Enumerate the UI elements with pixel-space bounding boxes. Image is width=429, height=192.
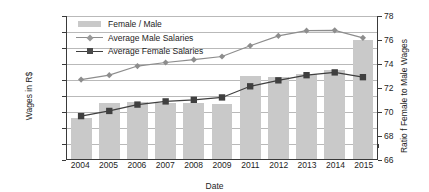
x-axis-tickmark	[378, 144, 379, 148]
data-point-square	[78, 113, 84, 119]
data-point-diamond	[78, 76, 84, 82]
y-axis-right-tickmark	[378, 88, 382, 89]
data-point-square	[134, 101, 140, 107]
data-point-diamond	[191, 57, 197, 63]
legend-item-female-male: Female / Male	[76, 19, 203, 29]
data-point-diamond	[332, 27, 338, 33]
y-axis-right-tick-label: 78	[384, 11, 429, 21]
legend-label-male-salaries: Average Male Salaries	[108, 33, 193, 43]
x-axis-tick-label: 2011	[236, 160, 264, 170]
data-point-square	[332, 69, 338, 75]
y-axis-right-tick-label: 68	[384, 131, 429, 141]
data-point-diamond	[247, 43, 253, 49]
legend-label-female-male: Female / Male	[108, 19, 162, 29]
y-axis-right-tickmark	[378, 64, 382, 65]
data-point-square	[162, 98, 168, 104]
data-point-diamond	[106, 72, 112, 78]
diamond-marker-icon	[76, 33, 103, 43]
x-axis-tick-labels: 2004200520062007200820092011201220132014…	[66, 160, 378, 170]
y-axis-right-tick-label: 74	[384, 59, 429, 69]
data-point-diamond	[163, 59, 169, 65]
data-point-square	[219, 94, 225, 100]
y-axis-right-tick-label: 76	[384, 35, 429, 45]
x-axis-tick-label: 2015	[350, 160, 378, 170]
y-axis-right-tickmark	[378, 112, 382, 113]
legend-label-female-salaries: Average Female Salaries	[108, 46, 203, 56]
data-point-square	[106, 108, 112, 114]
y-axis-right-tickmark	[378, 160, 382, 161]
x-axis-tick-label: 2013	[293, 160, 321, 170]
x-axis-tick-label: 2014	[321, 160, 349, 170]
data-point-diamond	[134, 63, 140, 69]
x-axis-title: Date	[0, 181, 429, 191]
x-axis-tick-label: 2007	[151, 160, 179, 170]
x-axis-tick-label: 2008	[179, 160, 207, 170]
square-marker-icon	[76, 46, 103, 56]
x-axis-tick-label: 2012	[265, 160, 293, 170]
x-axis-tick-label: 2009	[208, 160, 236, 170]
legend-item-male-salaries: Average Male Salaries	[76, 33, 203, 43]
y-axis-right-tickmark	[378, 40, 382, 41]
y-axis-title-left: Wages in R$	[24, 41, 34, 151]
data-point-square	[360, 74, 366, 80]
y-axis-right-tickmark	[378, 16, 382, 17]
y-axis-right-tick-label: 72	[384, 83, 429, 93]
data-point-diamond	[275, 33, 281, 39]
y-axis-right-tickmark	[378, 136, 382, 137]
data-point-square	[247, 83, 253, 89]
legend-item-female-salaries: Average Female Salaries	[76, 46, 203, 56]
data-point-square	[303, 72, 309, 78]
x-axis-tick-label: 2006	[123, 160, 151, 170]
legend: Female / Male Average Male Salaries Aver…	[76, 19, 203, 56]
y-axis-right-tick-label: 70	[384, 107, 429, 117]
data-point-diamond	[360, 35, 366, 41]
data-point-square	[275, 77, 281, 83]
x-axis-tick-label: 2005	[94, 160, 122, 170]
bar-swatch-icon	[76, 19, 103, 29]
y-axis-right-tick-label: 66	[384, 155, 429, 165]
wages-ratio-chart: Wages in R$ Ratio f Female to Male Wages…	[0, 0, 429, 192]
data-point-diamond	[219, 53, 225, 59]
data-point-diamond	[303, 28, 309, 34]
x-axis-tick-label: 2004	[66, 160, 94, 170]
data-point-square	[191, 97, 197, 103]
